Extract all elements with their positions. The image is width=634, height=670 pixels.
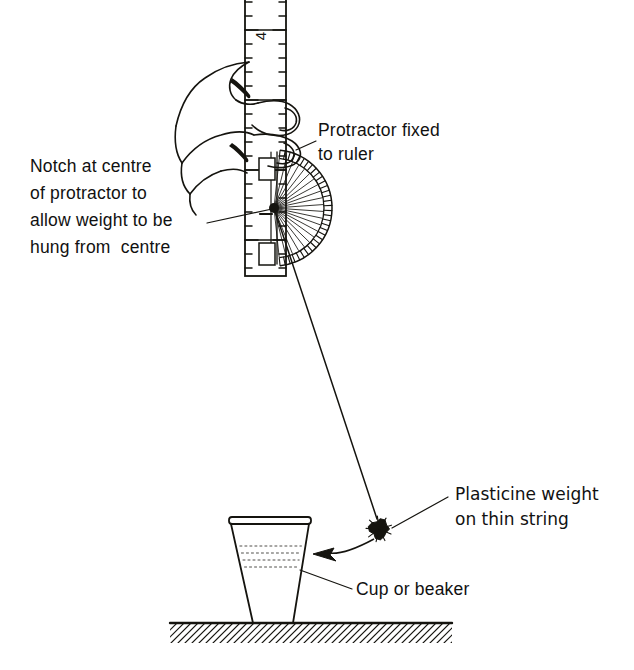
protractor [259,150,332,265]
arrow-shaft [328,539,374,553]
protractor-graduation [310,168,316,173]
label-plasticine-line2: on thin string [455,509,569,529]
weight-texture [366,528,379,529]
protractor-graduation [292,255,295,262]
protractor-graduation [320,227,327,230]
protractor-graduation [316,176,323,180]
ruler-body [245,0,286,276]
protractor-graduation [322,223,330,225]
protractor-graduation [318,181,325,185]
protractor-graduation [304,161,309,167]
protractor-graduation [307,245,312,251]
protractor-graduation [300,251,304,258]
hatch-stroke [451,623,471,643]
protractor-graduation [324,200,332,201]
ruler-number-label: 4 [252,32,269,40]
leader-cup-leader [300,570,352,589]
hatch-stroke [150,623,170,643]
plasticine-weight [366,516,391,542]
protractor-graduation [288,152,290,160]
label-notch-line4: hung from centre [30,237,171,257]
label-cup-or-beaker: Cup or beaker [356,579,470,599]
protractor-graduation [313,172,319,177]
protractor-clip-bottom [259,243,275,265]
arrow-head [313,548,336,561]
protractor-graduation [313,239,319,244]
label-notch-line3: allow weight to be [30,210,173,230]
protractor-graduation [318,231,325,235]
protractor-graduation [323,219,331,221]
protractor-graduation [323,195,331,197]
protractor-graduation [300,159,304,166]
labels-layer: Protractor fixed to ruler Notch at centr… [30,32,599,599]
protractor-graduation [307,165,312,171]
hatch-stroke [458,623,478,643]
label-notch-line2: of protractor to [30,183,147,203]
protractor-graduation [316,235,323,239]
graphics-layer [150,0,485,643]
protractor-graduation [304,248,309,254]
protractor-graduation [324,215,332,216]
experiment-diagram: Protractor fixed to ruler Notch at centr… [0,0,634,670]
label-protractor-fixed-line2: to ruler [318,144,374,164]
protractor-graduation [296,253,300,260]
ground-hatching [150,623,485,643]
ground-surface [150,623,485,643]
swing-direction-arrow [313,539,374,561]
protractor-graduation [310,242,316,247]
cup-or-beaker [229,517,311,623]
protractor-graduation [320,185,327,188]
label-protractor-fixed-line1: Protractor fixed [318,120,440,140]
apparatus-illustration: Protractor fixed to ruler Notch at centr… [0,0,634,670]
protractor-clip-top [259,158,275,180]
label-plasticine-line1: Plasticine weight [455,484,599,504]
hatch-stroke [465,623,485,643]
ruler [245,0,286,276]
pendulum-string [274,208,377,519]
protractor-graduation [322,190,330,192]
cup-rim [229,517,311,524]
cup-body [231,524,309,623]
label-notch-line1: Notch at centre [30,156,152,176]
leader-plasticine-leader [392,497,448,528]
